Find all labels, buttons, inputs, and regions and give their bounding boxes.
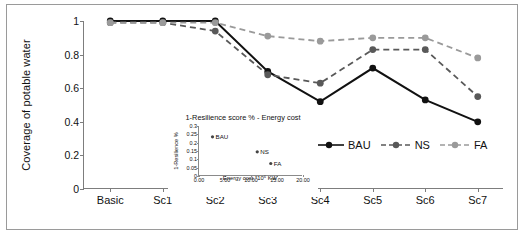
legend-label-ns: NS — [415, 139, 430, 151]
inset-y-tick-3: 0.15 — [187, 148, 198, 154]
y-axis-label: Coverage of potable water — [20, 21, 34, 189]
y-tick-1: 0.2 — [64, 149, 79, 161]
y-tick-3: 0.6 — [64, 82, 79, 94]
inset-chart: 1-Resilience score % - Energy cost 1-Res… — [168, 113, 318, 197]
y-tick-0: 0 — [73, 183, 79, 195]
main-plot-area: Coverage of potable water 0 0.2 0.4 0.6 … — [83, 21, 503, 189]
y-tick-5: 1 — [73, 15, 79, 27]
legend-swatch-ns — [381, 140, 411, 150]
legend-swatch-bau — [314, 140, 344, 150]
inset-y-tick-2: 0.1 — [190, 156, 198, 162]
inset-y-tick-6: 0.3 — [190, 123, 198, 129]
legend: BAU NS FA — [310, 137, 491, 153]
chart-frame: Coverage of potable water 0 0.2 0.4 0.6 … — [6, 4, 518, 230]
y-tick-4: 0.8 — [64, 49, 79, 61]
x-tick-sc6: Sc6 — [416, 194, 435, 206]
inset-y-tick-5: 0.25 — [187, 131, 198, 137]
inset-title: 1-Resilience score % - Energy cost — [168, 113, 318, 122]
x-tick-basic: Basic — [97, 194, 124, 206]
legend-label-fa: FA — [474, 139, 487, 151]
x-tick-sc7: Sc7 — [468, 194, 487, 206]
y-tick-mark-0 — [80, 189, 84, 190]
inset-y-tick-4: 0.2 — [190, 140, 198, 146]
x-tick-sc5: Sc5 — [363, 194, 382, 206]
inset-plot-area: 1-Resilience % 0 0.05 0.1 0.15 0.2 0.25 … — [198, 126, 302, 176]
legend-item-ns: NS — [381, 139, 430, 151]
inset-point-label-bau: BAU — [216, 133, 229, 140]
inset-x-tick-mark-4 — [303, 175, 304, 177]
inset-x-axis-label: Energy cost *10⁶ KW — [198, 175, 302, 181]
y-tick-2: 0.4 — [64, 116, 79, 128]
inset-y-axis-label: 1-Resilience % — [173, 126, 182, 176]
legend-item-fa: FA — [440, 139, 487, 151]
inset-y-tick-1: 0.05 — [187, 165, 198, 171]
inset-point-label-ns: NS — [260, 148, 269, 155]
legend-item-bau: BAU — [314, 139, 371, 151]
legend-label-bau: BAU — [348, 139, 371, 151]
chart-screenshot: Coverage of potable water 0 0.2 0.4 0.6 … — [0, 0, 526, 236]
legend-swatch-fa — [440, 140, 470, 150]
inset-point-label-fa: FA — [274, 160, 282, 167]
